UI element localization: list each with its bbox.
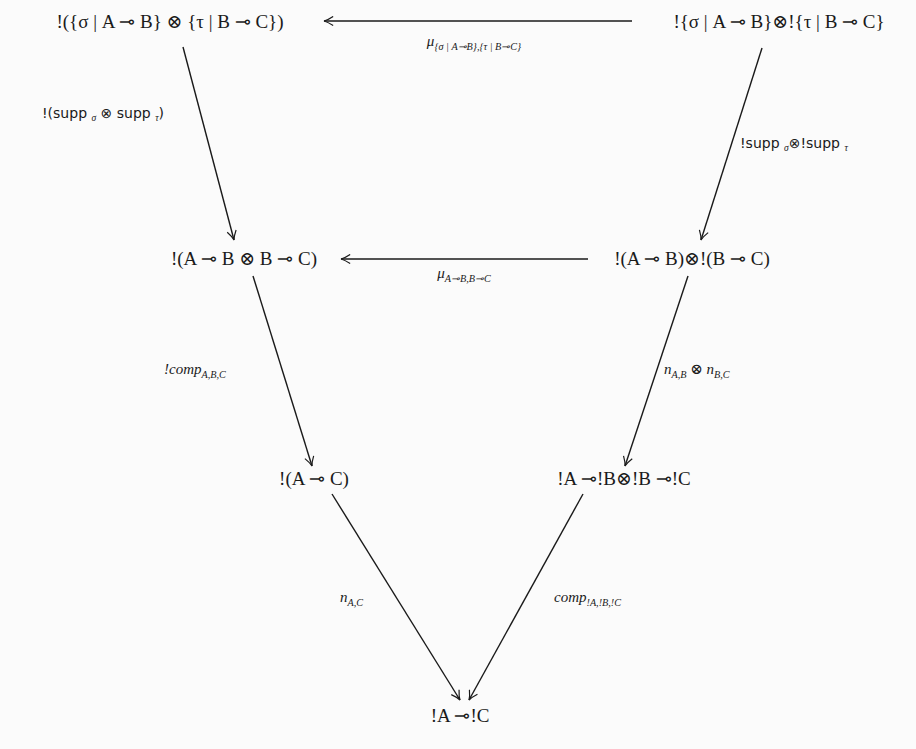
label-mu-mid-sub: A⊸B,B⊸C [445, 273, 491, 284]
commutative-diagram: !({σ | A ⊸ B} ⊗ {τ | B ⊸ C}) !{σ | A ⊸ B… [0, 0, 916, 749]
label-comp-left-main: !comp [164, 361, 202, 377]
arrow-comp-left [253, 276, 312, 466]
label-supp-left: !(supp σ ⊗ supp τ) [42, 106, 164, 124]
node-top-right: !{σ | A ⊸ B}⊗!{τ | B ⊸ C} [673, 12, 884, 31]
label-part: !supp [740, 135, 784, 151]
label-part: ⊗!supp [789, 135, 845, 151]
label-n-ac-sub: A,C [348, 597, 364, 608]
label-comp-bang: comp!A,!B,!C [554, 590, 621, 608]
label-comp-bang-main: comp [554, 589, 587, 605]
label-mu-mid: μA⊸B,B⊸C [437, 266, 491, 284]
node-low-right: !A ⊸!B⊗!B ⊸!C [557, 469, 690, 488]
label-n-ac: nA,C [340, 590, 363, 608]
arrow-supp-left [183, 47, 234, 240]
node-top-left: !({σ | A ⊸ B} ⊗ {τ | B ⊸ C}) [56, 12, 283, 31]
label-comp-left-sub: A,B,C [202, 369, 226, 380]
node-bottom: !A ⊸!C [431, 706, 490, 725]
label-mu-top-main: μ [427, 33, 435, 49]
label-n-ac-main: n [340, 589, 348, 605]
label-n-tensor-sub1: A,B [672, 369, 687, 380]
node-mid-left: !(A ⊸ B ⊗ B ⊸ C) [171, 249, 317, 268]
label-mu-top: μ{σ | A⊸B},{τ | B⊸C} [427, 34, 521, 52]
label-comp-bang-sub: !A,!B,!C [587, 597, 622, 608]
label-n-tensor-op: ⊗ [687, 361, 707, 377]
label-supp-right: !supp σ⊗!supp τ [740, 136, 848, 154]
label-part: ) [159, 105, 164, 121]
label-comp-left: !compA,B,C [164, 362, 226, 380]
label-mu-top-sub: {σ | A⊸B},{τ | B⊸C} [434, 41, 521, 52]
node-low-left: !(A ⊸ C) [279, 469, 349, 488]
label-part: !(supp [42, 105, 91, 121]
label-mu-mid-main: μ [437, 265, 445, 281]
label-n-tensor: nA,B ⊗ nB,C [664, 362, 730, 380]
label-n-tensor-sub2: B,C [714, 369, 730, 380]
label-part: ⊗ supp [96, 105, 155, 121]
node-mid-right: !(A ⊸ B)⊗!(B ⊸ C) [614, 249, 770, 268]
label-n-tensor-main2: n [707, 361, 715, 377]
label-sub: τ [844, 143, 847, 153]
label-n-tensor-main1: n [664, 361, 672, 377]
